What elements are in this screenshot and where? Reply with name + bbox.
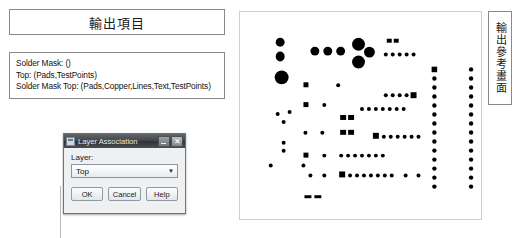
pcb-pad (469, 148, 473, 152)
pcb-pad (310, 47, 319, 56)
pcb-preview-panel[interactable] (239, 11, 482, 220)
pcb-pad (367, 107, 371, 111)
pcb-pad (432, 67, 438, 73)
layer-select-value: Top (72, 167, 165, 176)
pcb-pad (339, 171, 345, 177)
pcb-pad (355, 173, 359, 177)
page-title: 輸出項目 (89, 13, 145, 32)
pcb-pad (303, 102, 308, 107)
pcb-pad (469, 103, 473, 107)
pcb-pad (402, 107, 406, 111)
pcb-pad (269, 164, 273, 168)
pcb-pad (396, 135, 400, 139)
pcb-pad (432, 130, 436, 134)
pcb-pad (469, 85, 473, 89)
pcb-pad (432, 139, 436, 143)
dialog-titlebar[interactable]: Layer Association (64, 134, 185, 148)
pcb-pad (388, 107, 392, 111)
pcb-pad (322, 154, 326, 158)
pcb-pad (276, 38, 285, 47)
layer-select[interactable]: Top ▼ (71, 164, 178, 178)
pcb-pad (469, 112, 473, 116)
close-icon[interactable] (171, 136, 183, 147)
pcb-pad (360, 154, 364, 158)
pcb-pad (346, 154, 350, 158)
pcb-pad (432, 103, 436, 107)
pcb-pad (301, 164, 305, 168)
pcb-pad (398, 93, 402, 97)
pcb-pad (405, 93, 409, 97)
pcb-pad (360, 107, 364, 111)
cancel-button[interactable]: Cancel (108, 187, 140, 201)
output-settings-pane: 輸出項目 Solder Mask: () Top: (Pads,TestPoin… (0, 0, 232, 238)
pcb-pad (364, 47, 375, 58)
output-items-title-box: 輸出項目 (9, 9, 225, 35)
pcb-pad (412, 53, 416, 57)
pcb-pad (282, 141, 286, 145)
pcb-pad (282, 149, 286, 153)
pcb-pad (398, 53, 402, 57)
pcb-pad (340, 115, 346, 120)
pcb-pad (469, 130, 473, 134)
pcb-pad (469, 139, 473, 143)
pcb-pad (432, 112, 436, 116)
pcb-pad (469, 184, 473, 188)
chevron-down-icon[interactable]: ▼ (165, 168, 177, 174)
pcb-pad (322, 173, 326, 177)
pcb-pad (382, 135, 386, 139)
pcb-pad (352, 38, 365, 51)
pcb-pad (384, 53, 388, 57)
pcb-pad (376, 173, 380, 177)
pcb-pad (339, 154, 343, 158)
layer-label: Layer: (71, 153, 178, 162)
pcb-pad (432, 76, 436, 80)
pcb-pad (432, 85, 436, 89)
pcb-pad (395, 107, 399, 111)
pcb-pad (469, 94, 473, 98)
pcb-pad (417, 135, 421, 139)
layer-association-dialog: Layer Association Layer: Top ▼ OK Cancel… (63, 133, 186, 214)
pcb-pad (432, 166, 436, 170)
pcb-pad (381, 154, 385, 158)
pcb-pad (322, 103, 326, 107)
pcb-pad (405, 53, 409, 57)
pcb-pad (303, 82, 308, 87)
pcb-pad (432, 94, 436, 98)
pcb-pad (308, 173, 312, 177)
pcb-pad (323, 47, 332, 56)
pcb-pad (303, 153, 308, 158)
pcb-pad (391, 93, 395, 97)
pcb-pad (336, 47, 345, 56)
pcb-pad (411, 92, 417, 98)
pcb-pad (353, 154, 357, 158)
pcb-pad (469, 121, 473, 125)
pcb-pad (352, 56, 365, 69)
pcb-pad (276, 112, 280, 116)
pcb-pad (389, 135, 393, 139)
pcb-pad (469, 157, 473, 161)
pcb-pad (348, 173, 352, 177)
pcb-pad (362, 173, 366, 177)
help-button[interactable]: Help (146, 187, 178, 201)
pcb-pad (276, 52, 285, 62)
list-item: Top: (Pads,TestPoints) (16, 70, 218, 82)
preview-caption-box: 輸出參考畫面 (488, 11, 512, 105)
pcb-pad (314, 195, 321, 198)
pcb-pad (391, 53, 395, 57)
pcb-pad (469, 67, 473, 71)
pcb-pad (417, 173, 421, 177)
pcb-pad (394, 39, 399, 43)
pcb-pad (288, 110, 292, 114)
pcb-pad (303, 131, 307, 135)
minimize-icon[interactable] (158, 136, 170, 147)
pcb-pad (340, 130, 346, 135)
pcb-pad (374, 107, 378, 111)
pcb-pad-plot (240, 12, 481, 219)
pcb-pad (304, 195, 311, 198)
pcb-pad (373, 133, 379, 139)
pcb-pad (403, 135, 407, 139)
list-item: Solder Mask Top: (Pads,Copper,Lines,Text… (16, 81, 218, 93)
ok-button[interactable]: OK (71, 187, 103, 201)
pcb-pad (469, 166, 473, 170)
pcb-pad (336, 83, 340, 87)
